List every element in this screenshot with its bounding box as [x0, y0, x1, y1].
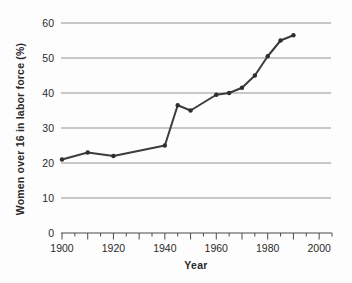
- data-point-1975: [253, 73, 257, 77]
- data-point-1965: [227, 91, 231, 95]
- x-tick-label: 1900: [50, 242, 74, 254]
- y-tick-label: 20: [42, 157, 54, 169]
- x-tick-label: 1980: [256, 242, 280, 254]
- y-tick-label: 0: [48, 227, 54, 239]
- x-tick-label: 1960: [205, 242, 229, 254]
- x-tick-label: 2000: [307, 242, 331, 254]
- x-tick-label: 1940: [153, 242, 177, 254]
- y-tick-label: 10: [42, 192, 54, 204]
- y-tick-label: 50: [42, 52, 54, 64]
- data-point-1940: [163, 143, 167, 147]
- x-axis-title: Year: [184, 259, 207, 271]
- line-chart: 0102030405060190019201940196019802000: [0, 0, 352, 283]
- data-line: [62, 35, 293, 159]
- y-tick-label: 30: [42, 122, 54, 134]
- data-point-1910: [86, 150, 90, 154]
- data-point-1990: [291, 33, 295, 37]
- data-point-1900: [60, 157, 64, 161]
- data-point-1950: [188, 108, 192, 112]
- data-point-1945: [176, 103, 180, 107]
- data-point-1970: [240, 86, 244, 90]
- data-point-1920: [111, 154, 115, 158]
- y-tick-label: 60: [42, 17, 54, 29]
- data-point-1985: [278, 38, 282, 42]
- data-point-1960: [214, 93, 218, 97]
- data-point-1980: [266, 54, 270, 58]
- chart-container: Women over 16 in labor force (%) 0102030…: [0, 0, 352, 283]
- y-tick-label: 40: [42, 87, 54, 99]
- x-tick-label: 1920: [102, 242, 126, 254]
